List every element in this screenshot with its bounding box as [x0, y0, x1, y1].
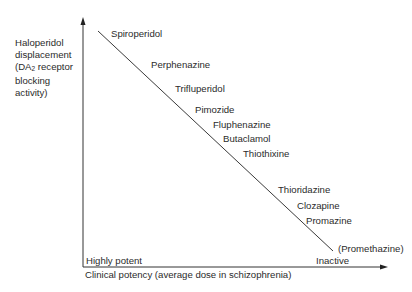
x-axis-label: Clinical potency (average dose in schizo… — [85, 269, 291, 280]
drug-label-trifluperidol: Trifluperidol — [175, 83, 225, 94]
y-axis-label-part: receptor — [35, 61, 73, 72]
x-axis-low-end-label: Highly potent — [86, 255, 142, 266]
y-axis-label: Haloperidol displacement (DA2 receptor b… — [15, 37, 73, 99]
x-axis-arrow-icon — [380, 265, 388, 270]
y-axis-arrow-icon — [81, 17, 86, 25]
x-axis-high-end-label: Inactive — [316, 255, 349, 266]
trend-line — [98, 31, 333, 251]
drug-label-perphenazine: Perphenazine — [151, 59, 210, 70]
drug-label-promethazine: (Promethazine) — [338, 243, 404, 254]
y-axis-label-line: blocking — [15, 75, 73, 87]
drug-label-fluphenazine: Fluphenazine — [213, 119, 271, 130]
drug-label-clozapine: Clozapine — [297, 200, 340, 211]
y-axis-label-line: Haloperidol — [15, 37, 73, 49]
drug-label-butaclamol: Butaclamol — [223, 133, 270, 144]
y-axis-label-line: activity) — [15, 87, 73, 99]
drug-label-thiothixine: Thiothixine — [243, 148, 289, 159]
y-axis-label-part: (DA — [15, 61, 32, 72]
y-axis-label-line: (DA2 receptor — [15, 61, 73, 75]
y-axis-label-line: displacement — [15, 49, 73, 61]
drug-label-thioridazine: Thioridazine — [278, 184, 330, 195]
drug-label-pimozide: Pimozide — [195, 104, 234, 115]
drug-label-spiroperidol: Spiroperidol — [111, 28, 162, 39]
drug-label-promazine: Promazine — [306, 215, 352, 226]
